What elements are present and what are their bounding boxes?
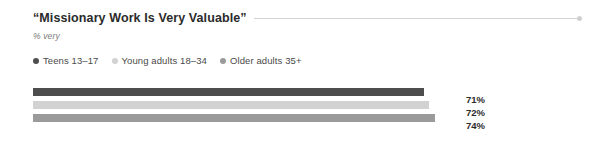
legend-dot-teens-icon [33,58,39,64]
bar-value-older-adults: 74% [466,122,485,130]
legend-label-teens: Teens 13–17 [43,54,99,67]
legend-label-older-adults: Older adults 35+ [230,54,302,67]
legend-item-older-adults[interactable]: Older adults 35+ [220,54,302,67]
chart-card: “Missionary Work Is Very Valuable” % ver… [0,0,590,143]
chart-title: “Missionary Work Is Very Valuable” [33,10,247,26]
legend-item-teens[interactable]: Teens 13–17 [33,54,99,67]
legend-dot-young-adults-icon [112,58,118,64]
bar-row-older-adults: 74% [33,114,582,122]
title-divider-line [254,18,577,19]
divider-end-dot-icon [577,16,582,21]
bar-row-young-adults: 72% [33,101,582,109]
bar-row-teens: 71% [33,88,582,96]
bar-young-adults [33,101,429,109]
legend-label-young-adults: Young adults 18–34 [122,54,207,67]
bar-teens [33,88,424,96]
chart-legend: Teens 13–17 Young adults 18–34 Older adu… [33,54,302,67]
bar-chart-plot-area: 71% 72% 74% [33,88,582,122]
legend-dot-older-adults-icon [220,58,226,64]
chart-subtitle: % very [33,31,60,41]
bar-older-adults [33,114,435,122]
chart-header: “Missionary Work Is Very Valuable” [33,10,582,26]
legend-item-young-adults[interactable]: Young adults 18–34 [112,54,207,67]
